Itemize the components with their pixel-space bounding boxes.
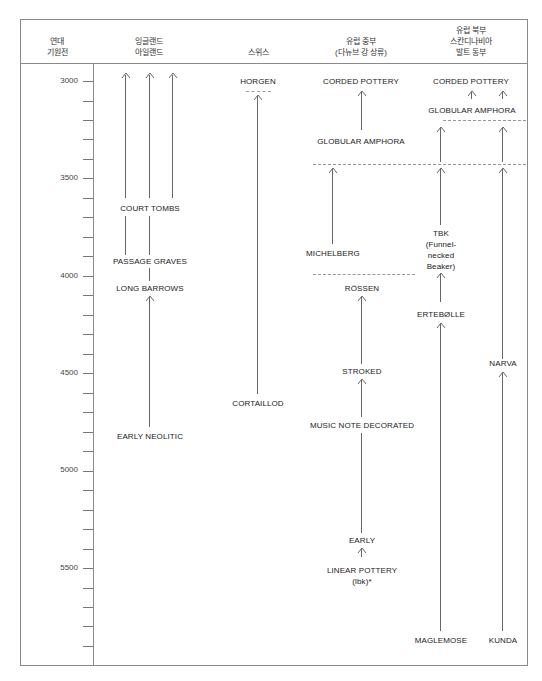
header-north-line3: 발트 동부 [450,47,492,58]
line-court-tombs-mid-up [149,75,150,198]
horgen-boundary-dashed [246,91,271,92]
header-central-line1: 유럽 중부 [335,36,387,47]
header-england-ireland: 잉글랜드 아일랜드 [135,36,163,58]
axis-label-4000: 4000 [38,271,78,280]
label-music-note-decorated: MUSIC NOTE DECORATED [310,420,414,431]
arrow-up-icon [329,167,338,174]
axis-label-4500: 4500 [38,368,78,377]
arrow-up-icon [499,371,508,378]
line-globular-to-corded-north-left [471,92,472,99]
header-england-line2: 아일랜드 [135,47,163,58]
line-narva-up [502,169,503,359]
label-corded-pottery-north: CORDED POTTERY [433,76,509,87]
line-early-neolitic-up [149,297,150,427]
label-early-neolitic: EARLY NEOLITIC [117,431,183,442]
header-divider [20,63,528,64]
axis-tick [83,315,93,316]
label-tbk-line2: (Funnel- [426,239,457,250]
line-long-to-passage [149,268,150,281]
header-central-europe: 유럽 중부 (다뉴브 강 상류) [335,36,387,58]
arrow-up-icon [437,167,446,174]
axis-tick [83,529,93,530]
label-tbk: TBK (Funnel- necked Beaker) [426,228,457,272]
label-corded-pottery-central: CORDED POTTERY [323,76,399,87]
line-court-tombs-left-up [125,75,126,198]
arrow-up-icon [122,72,131,79]
label-kunda: KUNDA [489,635,518,646]
arrow-up-icon [358,378,367,385]
header-switzerland: 스위스 [248,47,269,58]
line-passage-to-court-left [125,216,126,255]
line-globular-to-corded [361,92,362,130]
label-globular-amphora-central: GLOBULAR AMPHORA [317,136,404,147]
line-kunda-up [502,373,503,631]
arrow-up-icon [499,126,508,133]
arrow-up-icon [169,72,178,79]
line-tbk-up [440,169,441,225]
header-date-line2: 기원전 [47,47,68,58]
axis-tick [83,159,93,160]
label-ertebolle: ERTEBØLLE [417,309,465,320]
axis-label-5000: 5000 [38,465,78,474]
axis-tick [83,334,93,335]
axis-tick [83,626,93,627]
header-england-line1: 잉글랜드 [135,36,163,47]
axis-tick [83,451,93,452]
label-court-tombs: COURT TOMBS [120,203,180,214]
label-tbk-line3: necked [426,250,457,261]
label-linear-pottery: LINEAR POTTERY (lbk)* [327,565,397,587]
axis-tick [83,490,93,491]
header-swiss-line1: 스위스 [248,47,269,58]
line-passage-to-court-mid [149,216,150,255]
line-narva-to-globular [502,128,503,162]
label-tbk-line4: Beaker) [426,261,457,272]
label-globular-amphora-north: GLOBULAR AMPHORA [428,105,515,116]
axis-tick [83,373,93,374]
axis-tick [83,354,93,355]
time-axis-line [93,63,94,666]
axis-label-3500: 3500 [38,173,78,182]
label-horgen: HORGEN [240,76,276,87]
header-north-line2: 스칸디나비아 [450,36,492,47]
axis-label-5500: 5500 [38,563,78,572]
axis-tick [83,198,93,199]
axis-tick [83,256,93,257]
arrow-up-icon [437,272,446,279]
axis-tick [83,393,93,394]
label-long-barrows: LONG BARROWS [116,283,183,294]
arrow-up-icon [358,90,367,97]
axis-tick [83,471,93,472]
header-date-line1: 연대 [47,36,68,47]
arrow-up-icon [437,322,446,329]
arrow-up-icon [358,547,367,554]
axis-tick [83,276,93,277]
line-court-tombs-right-up [172,75,173,198]
arrow-up-icon [146,72,155,79]
axis-tick [83,120,93,121]
label-maglemose: MAGLEMOSE [415,635,467,646]
label-linear-pottery-line1: LINEAR POTTERY [327,565,397,576]
line-maglemose-up [440,324,441,631]
label-cortaillod: CORTAILLOD [232,398,283,409]
axis-tick [83,295,93,296]
line-linear-to-early [361,549,362,557]
arrow-up-icon [358,295,367,302]
arrow-up-icon [146,295,155,302]
dashed-boundary-4000-central [313,274,415,275]
arrow-up-icon [499,167,508,174]
axis-tick [83,549,93,550]
line-stroked-up [361,297,362,364]
line-michelberg-up [332,169,333,244]
line-cortaillod-up [257,96,258,394]
arrow-up-icon [437,126,446,133]
label-stroked: STROKED [342,366,381,377]
label-tbk-line1: TBK [426,228,457,239]
axis-tick [83,412,93,413]
axis-tick [83,510,93,511]
header-north-line1: 유럽 북부 [450,25,492,36]
axis-tick [83,139,93,140]
arrow-up-icon [468,90,477,97]
diagram-frame [20,19,528,666]
line-globular-to-corded-north-right [502,92,503,99]
axis-tick [83,237,93,238]
